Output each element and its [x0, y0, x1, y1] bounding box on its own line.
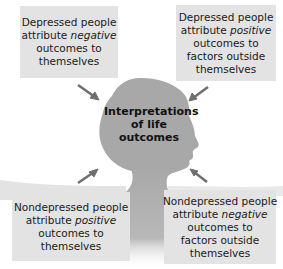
box-text-line: themselves — [196, 63, 256, 76]
box-text-emphasis: positive — [75, 214, 116, 226]
box-text-line: attribute negative — [172, 208, 267, 221]
box-text-line: outcomes to — [36, 42, 101, 55]
box-text-plain: attribute — [21, 29, 70, 41]
box-text-line: themselves — [190, 247, 250, 260]
box-text-emphasis: negative — [222, 208, 268, 220]
box-depressed-positive-external: Depressed people attribute positive outc… — [176, 5, 276, 81]
box-text-line: themselves — [41, 240, 101, 253]
box-text-line: factors outside — [181, 234, 259, 247]
box-text-plain: attribute — [181, 24, 230, 36]
box-nondepressed-positive-self: Nondepressed people attribute positive o… — [12, 192, 130, 261]
box-text-line: themselves — [39, 55, 99, 68]
box-text-plain: attribute — [172, 208, 221, 220]
diagram: Interpretations of life outcomes Depress… — [0, 0, 283, 269]
box-text-line: outcomes to — [193, 37, 258, 50]
box-text-line: Depressed people — [179, 11, 274, 24]
arrow-icon — [190, 169, 207, 182]
arrow-icon — [78, 85, 99, 100]
box-nondepressed-negative-external: Nondepressed people attribute negative o… — [164, 190, 276, 264]
box-text-emphasis: negative — [71, 29, 117, 41]
box-text-plain: attribute — [26, 214, 75, 226]
box-text-line: attribute positive — [26, 214, 116, 227]
box-text-line: outcomes to — [187, 221, 252, 234]
box-text-line: attribute positive — [181, 24, 271, 37]
box-text-line: Nondepressed people — [163, 195, 277, 208]
center-label-line: Interpretations — [104, 105, 194, 118]
center-label-line: outcomes — [104, 131, 194, 144]
box-text-line: Depressed people — [22, 16, 117, 29]
box-text-line: outcomes to — [38, 227, 103, 240]
center-label: Interpretations of life outcomes — [104, 105, 194, 144]
box-text-line: attribute negative — [21, 29, 116, 42]
box-text-line: Nondepressed people — [14, 201, 128, 214]
arrow-icon — [189, 87, 208, 101]
box-depressed-negative-self: Depressed people attribute negative outc… — [20, 6, 118, 78]
center-label-line: of life — [104, 118, 194, 131]
box-text-line: factors outside — [187, 50, 265, 63]
box-text-emphasis: positive — [230, 24, 271, 36]
arrow-icon — [78, 169, 98, 183]
